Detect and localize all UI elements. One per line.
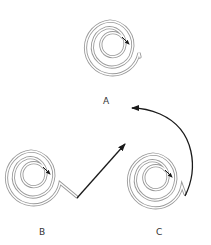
- label-c: C: [156, 228, 162, 237]
- spiral-a: [85, 21, 140, 75]
- spiral-b: [6, 151, 77, 205]
- diagram-canvas: [0, 0, 211, 245]
- label-a: A: [103, 97, 109, 106]
- spiral-c: [128, 154, 185, 208]
- arrow-c-to-a: [132, 108, 192, 196]
- label-b: B: [39, 228, 45, 237]
- arrow-b-to-a: [77, 144, 125, 198]
